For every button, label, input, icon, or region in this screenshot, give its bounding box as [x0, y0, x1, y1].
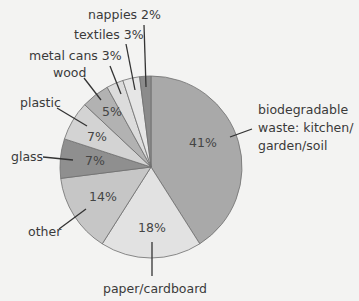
- pie-chart: 41% 18% 14% 7% 7% 5% biodegradable waste…: [0, 0, 359, 301]
- label-wood: wood: [53, 65, 86, 80]
- label-textiles: textiles 3%: [74, 27, 144, 42]
- label-biodegradable-2: waste: kitchen/: [258, 120, 354, 135]
- pct-plastic: 7%: [87, 129, 107, 144]
- label-nappies: nappies 2%: [88, 7, 161, 22]
- label-biodegradable-1: biodegradable: [258, 102, 348, 117]
- pct-biodegradable: 41%: [189, 135, 217, 150]
- label-plastic: plastic: [20, 95, 61, 110]
- label-biodegradable-3: garden/soil: [258, 138, 327, 153]
- label-other: other: [28, 224, 62, 239]
- label-glass: glass: [11, 149, 43, 164]
- pct-glass: 7%: [85, 153, 105, 168]
- pct-wood: 5%: [102, 104, 122, 119]
- label-paper: paper/cardboard: [103, 281, 207, 296]
- label-metal-cans: metal cans 3%: [29, 48, 122, 63]
- pct-paper: 18%: [138, 220, 166, 235]
- pct-other: 14%: [89, 189, 117, 204]
- leader-wood: [84, 78, 101, 100]
